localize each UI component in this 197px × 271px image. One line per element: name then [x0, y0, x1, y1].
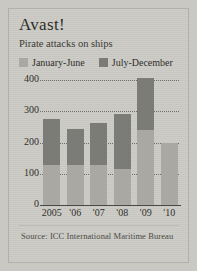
y-tick-label: 200 [11, 136, 39, 147]
x-axis-line [40, 205, 181, 206]
bar-segment-july-december [90, 123, 107, 165]
gridline [40, 174, 179, 175]
bar-segment-january-june [90, 165, 107, 205]
y-tick-label: 300 [11, 104, 39, 115]
x-tick-label: '06 [64, 207, 88, 218]
plot-area [40, 83, 179, 205]
x-axis: 2005'06'07'08'09'10 [40, 207, 181, 221]
bar-segment-july-december [137, 78, 154, 130]
chart-figure: Avast! Pirate attacks on ships January-J… [8, 8, 189, 263]
x-tick-label: 2005 [40, 207, 64, 218]
gridline [40, 80, 179, 81]
y-tick-label: 0 [11, 198, 39, 209]
bar-segment-january-june [67, 165, 84, 205]
bar-10 [161, 143, 178, 205]
y-tick-label: 100 [11, 167, 39, 178]
bar-segment-july-december [43, 119, 60, 165]
bar-06 [67, 129, 84, 205]
gridline [40, 111, 179, 112]
bar-segment-july-december [114, 114, 131, 170]
bar-segment-january-june [161, 143, 178, 205]
bar-09 [137, 78, 154, 205]
x-tick-label: '08 [111, 207, 135, 218]
bar-segment-january-june [114, 169, 131, 205]
x-tick-label: '09 [134, 207, 158, 218]
source-divider [19, 225, 179, 226]
x-tick-label: '10 [158, 207, 182, 218]
bar-segment-january-june [43, 165, 60, 205]
gridline [40, 143, 179, 144]
y-tick-label: 400 [11, 73, 39, 84]
source-note: Source: ICC International Maritime Burea… [21, 231, 173, 241]
bar-2005 [43, 119, 60, 205]
bar-07 [90, 123, 107, 205]
bar-segment-january-june [137, 130, 154, 205]
bar-08 [114, 114, 131, 205]
bar-segment-july-december [67, 129, 84, 166]
x-tick-label: '07 [87, 207, 111, 218]
y-axis: 0100200300400 [9, 75, 39, 210]
